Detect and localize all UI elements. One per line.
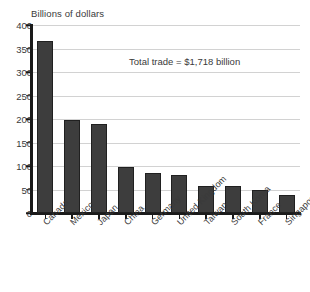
bar: [145, 173, 161, 213]
y-axis-title: Billions of dollars: [31, 8, 104, 19]
bar: [118, 167, 134, 213]
bars-container: [32, 25, 300, 213]
y-axis-ticks: 050100150200250300350400: [0, 25, 32, 213]
total-trade-annotation: Total trade = $1,718 billion: [129, 56, 240, 67]
bar: [37, 41, 53, 213]
bar-chart: Billions of dollars 05010015020025030035…: [0, 0, 310, 292]
bar: [91, 124, 107, 213]
